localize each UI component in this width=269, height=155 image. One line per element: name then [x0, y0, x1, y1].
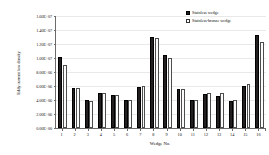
- bars-layer: [56, 16, 266, 128]
- bar: [85, 100, 89, 128]
- x-axis-tick-mark: [114, 128, 115, 131]
- y-axis-tick-label: 1.40E+07: [21, 28, 52, 33]
- bar: [102, 93, 106, 128]
- bar: [247, 84, 251, 128]
- y-axis-tick-label: 6.00E+06: [21, 84, 52, 89]
- y-axis-tick-label: 0.00E+00: [21, 126, 52, 131]
- bar-group: [85, 16, 93, 128]
- bar-group: [177, 16, 185, 128]
- x-axis-tick-label: 6: [120, 132, 134, 138]
- bar-group: [242, 16, 250, 128]
- x-axis-tick-mark: [140, 128, 141, 131]
- bar: [124, 100, 128, 128]
- y-axis-tick-label: 1.20E+07: [21, 42, 52, 47]
- bar: [115, 95, 119, 128]
- x-axis-tick-mark: [127, 128, 128, 131]
- x-axis-tick-mark: [101, 128, 102, 131]
- bar: [229, 101, 233, 128]
- bar: [194, 100, 198, 128]
- bar: [155, 38, 159, 128]
- y-axis-tick-label: 1.60E+07: [21, 14, 52, 19]
- x-axis-tick-label: 8: [146, 132, 160, 138]
- x-axis-tick-label: 11: [186, 132, 200, 138]
- empty-square-marker-icon: [186, 19, 190, 23]
- bar: [177, 89, 181, 128]
- y-axis-tick-labels: 0.00E+002.00E+064.00E+066.00E+068.00E+06…: [21, 16, 52, 128]
- bar: [207, 93, 211, 128]
- eddy-current-loss-bar-chart: Eddy current loss density 0.00E+002.00E+…: [0, 0, 269, 155]
- x-axis-tick-mark: [193, 128, 194, 131]
- bar: [163, 55, 167, 129]
- x-axis-tick-mark: [88, 128, 89, 131]
- legend-item-label: Stainless wedge: [192, 10, 218, 16]
- x-axis-tick-mark: [245, 128, 246, 131]
- x-axis-tick-label: 7: [133, 132, 147, 138]
- bar: [98, 93, 102, 128]
- legend-item-stainless-wedge: Stainless wedge: [186, 9, 268, 17]
- bar-group: [72, 16, 80, 128]
- x-axis-tick-label: 3: [81, 132, 95, 138]
- bar: [111, 95, 115, 128]
- x-axis-tick-label: 9: [160, 132, 174, 138]
- x-axis-tick-mark: [206, 128, 207, 131]
- bar: [181, 89, 185, 128]
- y-axis-tick-label: 8.00E+06: [21, 70, 52, 75]
- x-axis-tick-label: 12: [199, 132, 213, 138]
- bar-group: [203, 16, 211, 128]
- bar-group: [124, 16, 132, 128]
- bar: [242, 86, 246, 128]
- x-axis-tick-label: 13: [212, 132, 226, 138]
- bar: [72, 88, 76, 128]
- bar-group: [98, 16, 106, 128]
- x-axis-tick-mark: [258, 128, 259, 131]
- x-axis-tick-mark: [75, 128, 76, 131]
- x-axis-tick-mark: [265, 128, 266, 131]
- x-axis-title: Wedge No.: [55, 140, 265, 147]
- bar: [233, 100, 237, 128]
- bar: [63, 65, 67, 128]
- legend-item-label: Stainless-bronze wedge: [192, 18, 231, 24]
- x-axis-tick-mark: [219, 128, 220, 131]
- x-axis-tick-label: 2: [68, 132, 82, 138]
- bar: [150, 37, 154, 128]
- bar-group: [255, 16, 263, 128]
- bar-group: [58, 16, 66, 128]
- x-axis-tick-mark: [232, 128, 233, 131]
- x-axis-tick-label: 1: [55, 132, 69, 138]
- x-axis-tick-mark: [153, 128, 154, 131]
- x-axis-tick-label: 4: [94, 132, 108, 138]
- x-axis-tick-label: 14: [225, 132, 239, 138]
- bar: [137, 87, 141, 128]
- bar: [58, 57, 62, 128]
- x-axis-tick-label: 10: [173, 132, 187, 138]
- bar: [216, 96, 220, 128]
- y-axis-tick-label: 4.00E+06: [21, 98, 52, 103]
- x-axis-tick-label: 16: [251, 132, 265, 138]
- bar-group: [229, 16, 237, 128]
- bar-group: [111, 16, 119, 128]
- bar: [76, 88, 80, 128]
- y-axis-tick-label: 1.00E+07: [21, 56, 52, 61]
- bar: [128, 100, 132, 128]
- bar-group: [190, 16, 198, 128]
- bar: [89, 101, 93, 128]
- bar: [168, 58, 172, 128]
- plot-area: [55, 16, 266, 129]
- x-axis-tick-label: 5: [107, 132, 121, 138]
- filled-square-marker-icon: [186, 11, 190, 15]
- bar-group: [163, 16, 171, 128]
- x-axis-tick-mark: [62, 128, 63, 131]
- bar: [203, 94, 207, 128]
- legend: Stainless wedge Stainless-bronze wedge: [186, 9, 268, 25]
- bar: [260, 42, 264, 128]
- legend-item-stainless-bronze-wedge: Stainless-bronze wedge: [186, 17, 268, 25]
- bar: [220, 93, 224, 128]
- bar-group: [137, 16, 145, 128]
- y-axis-tick-label: 2.00E+06: [21, 112, 52, 117]
- x-axis-tick-label: 15: [238, 132, 252, 138]
- bar-group: [216, 16, 224, 128]
- x-axis-tick-mark: [167, 128, 168, 131]
- bar: [190, 100, 194, 128]
- bar-group: [150, 16, 158, 128]
- x-axis-tick-mark: [180, 128, 181, 131]
